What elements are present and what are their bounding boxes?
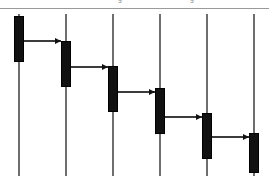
activation-bar[interactable] [155, 88, 165, 134]
clipped-header-label: g [190, 0, 194, 2]
activation-bar[interactable] [108, 66, 118, 112]
activation-bar[interactable] [249, 133, 259, 173]
sequence-diagram-canvas: g g [0, 0, 269, 189]
activation-bar[interactable] [202, 113, 212, 159]
clipped-header-text: g g [0, 0, 269, 6]
lifeline[interactable] [65, 14, 67, 176]
clipped-header-label: g [118, 0, 122, 2]
activation-bar[interactable] [14, 16, 24, 62]
activation-bar[interactable] [61, 41, 71, 87]
header-separator-rule [0, 8, 269, 9]
